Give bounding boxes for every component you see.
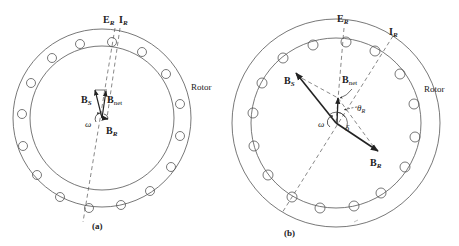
bs-to-bnet-dash: [296, 75, 338, 98]
label-br: BR: [370, 157, 382, 170]
rotor-slots: [248, 37, 420, 213]
label-er: ER: [337, 13, 349, 26]
caption-a: (a): [92, 221, 103, 231]
label-bs: BS: [81, 94, 92, 107]
rotor-label: Rotor: [191, 82, 212, 92]
theta-pointer: [344, 107, 357, 110]
label-bs: BS: [284, 75, 295, 88]
caption-b: (b): [284, 228, 295, 238]
label-br: BR: [106, 125, 118, 138]
label-er: ER: [103, 14, 115, 27]
panel-a: ER IR BS Bnet BR ω Rotor (a): [13, 14, 212, 231]
label-ir: IR: [119, 14, 128, 27]
omega-arrow: [95, 113, 100, 122]
panel-b: ER IR BS Bnet BR ω θR δ Rotor (b): [232, 13, 445, 238]
br-vector: [102, 118, 108, 119]
bnet-pointer: [340, 89, 352, 98]
label-ir: IR: [389, 26, 398, 39]
br-vector: [336, 123, 378, 151]
label-omega: ω: [85, 119, 91, 129]
bs-vector: [296, 73, 336, 123]
label-theta-r: θR: [357, 103, 365, 114]
bnet-vector: [337, 98, 338, 123]
induction-motor-figure: ER IR BS Bnet BR ω Rotor (a): [0, 0, 459, 246]
rotor-label: Rotor: [424, 84, 445, 94]
stray-mark: [354, 220, 358, 222]
label-bnet: Bnet: [107, 94, 122, 107]
label-bnet: Bnet: [342, 74, 357, 87]
label-omega: ω: [318, 119, 324, 129]
